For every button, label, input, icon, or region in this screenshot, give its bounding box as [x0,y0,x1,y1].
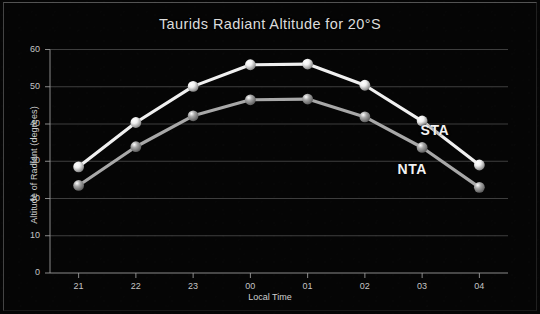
x-tick-label: 03 [407,281,437,291]
plot-area [0,0,540,314]
data-point-nta-03[interactable] [417,142,428,153]
x-tick-label: 23 [178,281,208,291]
y-tick-label: 50 [14,81,40,91]
data-point-nta-04[interactable] [474,182,485,193]
data-point-sta-22[interactable] [130,117,141,128]
y-tick-label: 20 [14,193,40,203]
data-point-nta-01[interactable] [302,94,313,105]
x-tick-label: 00 [235,281,265,291]
data-point-sta-02[interactable] [359,80,370,91]
y-tick-label: 0 [14,267,40,277]
data-point-sta-00[interactable] [245,59,256,70]
x-tick-label: 01 [293,281,323,291]
x-tick-label: 22 [121,281,151,291]
series-annotation-nta: NTA [398,161,428,177]
series-annotation-sta: STA [420,122,449,138]
chart-container: Taurids Radiant Altitude for 20°S Altitu… [0,0,540,314]
data-point-nta-02[interactable] [359,112,370,123]
y-tick-label: 10 [14,230,40,240]
data-point-sta-04[interactable] [474,160,485,171]
data-point-nta-00[interactable] [245,94,256,105]
x-tick-label: 02 [350,281,380,291]
x-tick-label: 04 [464,281,494,291]
data-point-nta-22[interactable] [130,141,141,152]
x-tick-label: 21 [64,281,94,291]
y-tick-label: 60 [14,44,40,54]
data-point-sta-01[interactable] [302,59,313,70]
data-point-nta-23[interactable] [188,110,199,121]
data-point-sta-23[interactable] [188,81,199,92]
data-point-sta-21[interactable] [73,161,84,172]
gridlines [50,50,508,236]
y-tick-label: 30 [14,155,40,165]
data-point-nta-21[interactable] [73,180,84,191]
y-tick-label: 40 [14,118,40,128]
